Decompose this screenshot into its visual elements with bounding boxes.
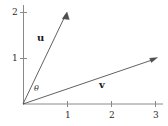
y-tick-label-1: 1	[12, 54, 18, 63]
x-tick-label-2: 2	[109, 111, 115, 120]
vector-v-shaft	[23, 59, 155, 104]
vector-label-v: v	[99, 80, 105, 90]
x-tick-label-1: 1	[65, 111, 71, 120]
vector-u-shaft	[23, 14, 66, 104]
vector-diagram-figure: 2 1 1 2 3 u v θ	[0, 0, 168, 126]
vector-plot-canvas	[0, 0, 168, 126]
vector-label-u: u	[37, 33, 44, 43]
x-tick-label-3: 3	[153, 111, 159, 120]
y-tick-label-2: 2	[12, 8, 18, 17]
angle-theta-label: θ	[34, 85, 39, 93]
vector-u-arrowhead	[62, 12, 69, 20]
vector-v	[23, 58, 158, 105]
vector-v-arrowhead	[150, 58, 158, 63]
